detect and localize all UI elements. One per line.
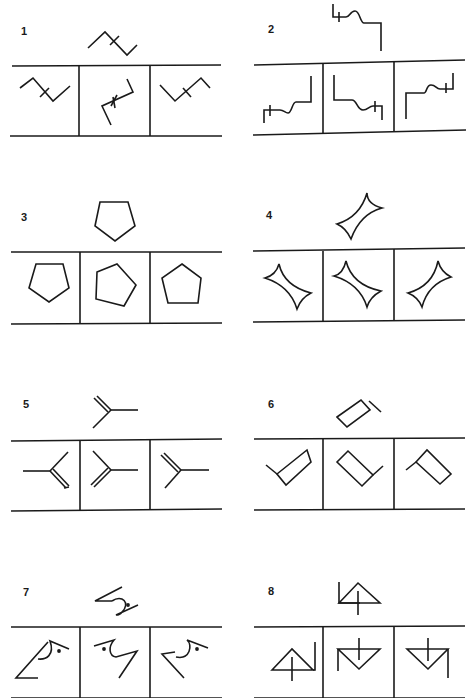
- item-7-grid: [11, 627, 222, 698]
- item-3-option-c-icon: [162, 264, 201, 303]
- item-2-number: 2: [268, 23, 274, 35]
- item-2-option-a-icon: [264, 76, 311, 123]
- item-5-number: 5: [23, 398, 29, 410]
- item-4-option-a-icon: [265, 264, 311, 309]
- item-5-option-b-icon: [91, 451, 138, 487]
- item-6-option-a-icon: [266, 450, 311, 485]
- item-7-target-hook-icon: [95, 587, 138, 615]
- item-1-option-a-icon: [20, 78, 70, 101]
- item-4-target-concave-diamond-icon: [337, 193, 382, 239]
- item-5-option-c-icon: [161, 453, 209, 488]
- item-7-number: 7: [23, 586, 29, 598]
- item-3-grid: [11, 252, 222, 324]
- item-4-option-c-icon: [408, 261, 451, 307]
- item-8-grid: [254, 626, 465, 698]
- item-3-number: 3: [21, 211, 27, 223]
- item-7-option-a-icon: [16, 641, 69, 678]
- item-1-option-b-icon: [102, 79, 133, 125]
- item-1-option-c-icon: [160, 78, 210, 101]
- item-8-target-triangle-icon: [339, 582, 380, 615]
- item-6-number: 6: [268, 398, 274, 410]
- item-2-option-c-icon: [406, 73, 453, 119]
- item-1-target-zigzag-icon: [88, 32, 137, 55]
- item-2-option-b-icon: [334, 75, 382, 120]
- item-5-option-a-icon: [23, 452, 69, 488]
- item-8-option-a-icon: [272, 642, 315, 681]
- item-4-grid: [253, 248, 465, 322]
- item-7-option-c-icon: [162, 640, 208, 678]
- item-7-option-b-icon: [94, 640, 137, 678]
- item-2-grid: [253, 60, 466, 135]
- item-3-option-a-icon: [29, 264, 69, 302]
- item-4-option-b-icon: [334, 261, 381, 307]
- item-8-option-b-icon: [338, 638, 380, 671]
- item-8-number: 8: [268, 585, 274, 597]
- item-3-target-pentagon-icon: [95, 202, 135, 241]
- item-2-target-stepped-line-icon: [333, 4, 381, 51]
- item-1-number: 1: [21, 25, 27, 37]
- item-4-number: 4: [266, 209, 272, 221]
- item-6-option-c-icon: [406, 450, 451, 484]
- item-6-target-rectangle-icon: [337, 400, 381, 427]
- item-8-option-c-icon: [407, 638, 448, 678]
- item-5-target-fork-icon: [93, 396, 138, 428]
- item-6-option-b-icon: [337, 451, 383, 486]
- test-sheet: 1 2 3 4 5 6 7 8: [0, 0, 473, 698]
- item-5-grid: [11, 439, 222, 511]
- item-6-grid: [254, 438, 465, 510]
- item-3-option-b-icon: [96, 264, 136, 306]
